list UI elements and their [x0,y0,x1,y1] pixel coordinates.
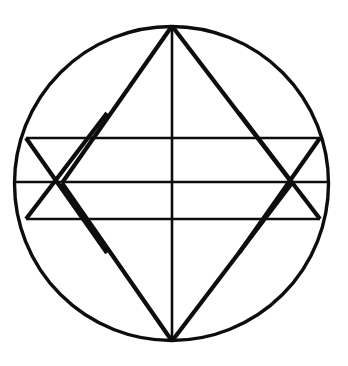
figure-canvas [0,0,348,366]
right-upper-cross-diagonal [239,138,320,253]
left-upper-cross-diagonal [26,138,107,253]
diamond-edge-bottom-left [62,183,172,341]
geometric-figure-svg [0,0,348,366]
diamond-edge-top-left [62,26,172,183]
right-lower-cross-diagonal [239,113,320,219]
left-lower-cross-diagonal [26,113,107,219]
